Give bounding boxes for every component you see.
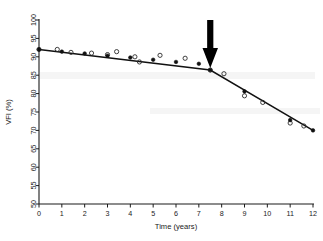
data-point-fitted (197, 62, 201, 66)
y-axis-title: VFI (%) (4, 99, 13, 125)
x-tick-label: 10 (263, 209, 271, 218)
x-tick-label: 8 (220, 209, 224, 218)
x-tick-label: 5 (151, 209, 155, 218)
y-tick-label: 90 (29, 53, 38, 61)
y-tick-label: 95 (29, 34, 38, 42)
data-point-fitted (129, 56, 133, 60)
data-point-fitted (106, 54, 110, 58)
y-tick-label: 80 (29, 90, 38, 98)
chart-canvas: 50556065707580859095100 0123456789101112… (0, 0, 323, 241)
x-tick-label: 12 (309, 209, 317, 218)
x-axis-title: Time (years) (155, 222, 198, 231)
vfi-time-chart: 50556065707580859095100 0123456789101112… (0, 0, 323, 241)
x-tick-label: 6 (174, 209, 178, 218)
y-tick-label: 65 (29, 145, 38, 153)
y-tick-label: 100 (29, 14, 38, 26)
y-tick-label: 70 (29, 126, 38, 134)
x-tick-label: 7 (197, 209, 201, 218)
x-tick-label: 9 (243, 209, 247, 218)
data-point-fitted (37, 48, 41, 52)
x-tick-label: 4 (128, 209, 132, 218)
data-point-fitted (243, 90, 247, 94)
data-point-fitted (311, 129, 315, 133)
x-tick-label: 2 (83, 209, 87, 218)
x-tick-label: 0 (37, 209, 41, 218)
chart-background (0, 0, 323, 241)
data-point-fitted (60, 50, 64, 54)
y-tick-label: 85 (29, 71, 38, 79)
x-tick-label: 1 (60, 209, 64, 218)
data-point-fitted (174, 60, 178, 64)
y-tick-label: 55 (29, 182, 38, 190)
y-tick-label: 75 (29, 108, 38, 116)
x-tick-label: 3 (106, 209, 110, 218)
scan-artifact (150, 108, 320, 114)
y-tick-label: 60 (29, 163, 38, 171)
x-tick-label: 11 (286, 209, 293, 218)
data-point-fitted (288, 118, 292, 122)
data-point-fitted (208, 68, 212, 72)
y-tick-label: 50 (29, 200, 38, 208)
data-point-fitted (83, 52, 87, 56)
data-point-fitted (151, 58, 155, 62)
scan-artifact (40, 72, 315, 79)
